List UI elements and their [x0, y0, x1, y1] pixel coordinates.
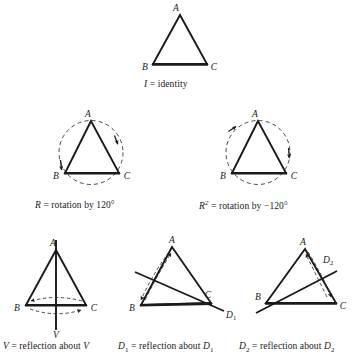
- vertex-label-c: C: [211, 62, 218, 72]
- vertex-label-c: C: [340, 301, 347, 311]
- vertex-label-b: B: [53, 171, 59, 181]
- vertex-label-b: B: [129, 303, 135, 313]
- triangle-identity: [153, 15, 207, 64]
- panel-reflection-v: A B C V: [14, 238, 98, 340]
- rotation-arrow-left-r: [61, 160, 62, 170]
- caption-reflection-v: V = reflection about V: [3, 341, 89, 351]
- axis-label-d2: D2: [322, 255, 333, 266]
- circumcircle-r2: [226, 121, 290, 185]
- vertex-label-c: C: [124, 171, 131, 181]
- caption-symbol-2: D: [324, 341, 331, 351]
- caption-text: = reflection about: [9, 341, 83, 351]
- vertex-label-b: B: [220, 171, 226, 181]
- caption-text: = reflection about: [250, 341, 324, 351]
- symmetry-figure: A B C A B C A: [0, 0, 359, 360]
- circumcircle-r: [59, 121, 123, 185]
- caption-symbol-2: D: [203, 341, 210, 351]
- axis-label-v: V: [53, 330, 60, 340]
- caption-symbol: D: [239, 341, 246, 351]
- vertex-label-a: A: [49, 238, 56, 248]
- rotation-arrow-right-r2: [289, 148, 290, 158]
- caption-reflection-d1: D1 = reflection about D1: [118, 341, 214, 354]
- caption-symbol: D: [118, 341, 125, 351]
- vertex-label-b: B: [14, 303, 20, 313]
- caption-rotation-r2: R2 = rotation by −120°: [199, 199, 288, 211]
- axis-label-d1: D1: [225, 310, 236, 321]
- caption-text: = reflection about: [129, 341, 203, 351]
- triangle-d1: [141, 247, 211, 305]
- panel-reflection-d2: A B C D2: [255, 237, 347, 313]
- panel-rotation-r2: A B C: [220, 109, 298, 185]
- triangle-d1-base: [140, 304, 212, 306]
- caption-text: = rotation by −120°: [209, 201, 288, 211]
- vertex-label-c: C: [291, 171, 298, 181]
- caption-text: = rotation by 120°: [41, 200, 115, 210]
- caption-subscript-2: 1: [210, 346, 214, 354]
- caption-subscript-2: 2: [331, 346, 335, 354]
- vertex-label-a: A: [299, 237, 306, 247]
- panel-rotation-r: A B C: [53, 109, 131, 185]
- vertex-label-a: A: [251, 109, 258, 119]
- vertex-label-a: A: [172, 3, 179, 13]
- vertex-label-b: B: [255, 292, 261, 302]
- caption-rotation-r: R = rotation by 120°: [35, 200, 115, 210]
- triangle-r: [65, 121, 119, 173]
- panel-reflection-d1: A B C D1: [129, 235, 236, 321]
- triangle-r2: [232, 121, 286, 173]
- caption-identity: I = identity: [144, 79, 188, 89]
- caption-symbol-2: V: [83, 341, 89, 351]
- triangle-symmetry-diagram: A B C A B C A: [0, 0, 359, 360]
- vertex-label-c: C: [91, 303, 98, 313]
- vertex-label-c: C: [205, 290, 212, 300]
- caption-reflection-d2: D2 = reflection about D2: [239, 341, 335, 354]
- rotation-arrow-right-r: [115, 136, 118, 145]
- panel-identity: A B C: [142, 3, 218, 72]
- vertex-label-a: A: [168, 235, 175, 245]
- vertex-label-a: A: [84, 109, 91, 119]
- swap-arc-up-d1: [145, 253, 171, 300]
- vertex-label-b: B: [142, 62, 148, 72]
- axis-line-d2: [256, 271, 337, 313]
- caption-text: = identity: [147, 79, 187, 89]
